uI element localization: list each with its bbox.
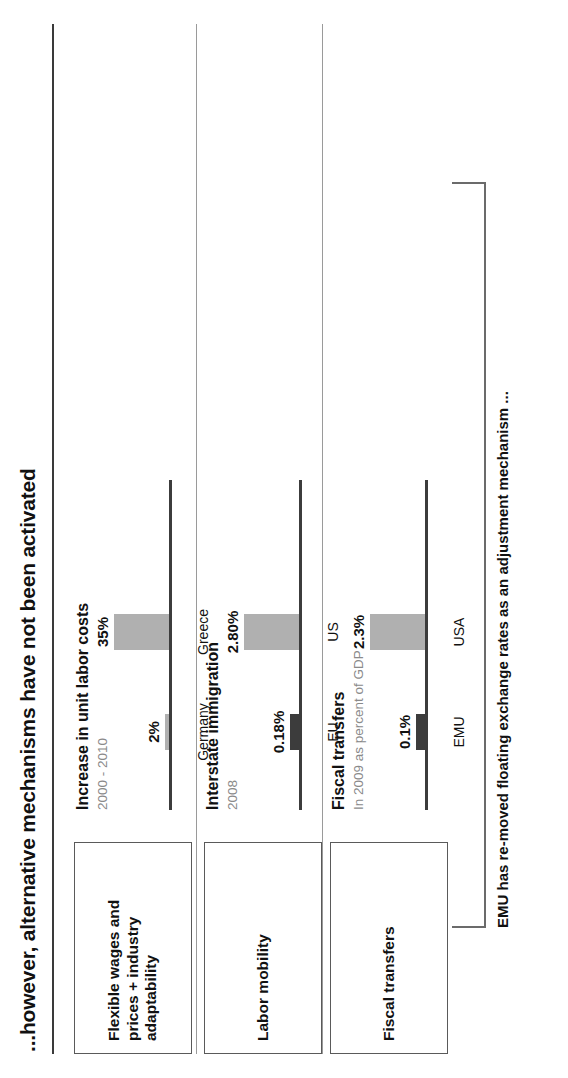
chart-title: Increase in unit labor costs bbox=[74, 603, 92, 810]
bar-value-label: 2.80% bbox=[224, 611, 241, 654]
chart-fiscal-transfers: Fiscal transfers In 2009 as percent of G… bbox=[330, 20, 448, 810]
row-divider bbox=[196, 24, 197, 1054]
bar-emu[interactable]: 0.1% bbox=[416, 714, 425, 750]
chart-title: Fiscal transfers bbox=[330, 692, 348, 810]
bar-group: 0.1% EMU bbox=[370, 714, 448, 750]
slide-frame: ...however, alternative mechanisms have … bbox=[0, 0, 568, 1078]
card-label: Flexible wages and prices + industry ada… bbox=[105, 843, 161, 1053]
bar-group: 2.3% USA bbox=[370, 614, 448, 650]
slide-canvas: ...however, alternative mechanisms have … bbox=[0, 0, 568, 1078]
row-divider bbox=[322, 24, 323, 1054]
bar-value-label: 35% bbox=[94, 617, 111, 647]
bar-group: 2% Germany bbox=[114, 714, 192, 750]
chart-subtitle: 2000 - 2010 bbox=[95, 738, 110, 810]
grouping-bracket bbox=[452, 182, 486, 928]
plot-area: 2% Germany 35% Greece bbox=[114, 20, 192, 810]
bar-group: 2.80% US bbox=[244, 614, 322, 650]
card-flexible-wages[interactable]: Flexible wages and prices + industry ada… bbox=[74, 842, 192, 1054]
plot-area: 0.18% EU 2.80% US bbox=[244, 20, 322, 810]
bracket-caption: EMU has re-moved floating exchange rates… bbox=[494, 168, 512, 928]
chart-interstate-immigration: Interstate immigration 2008 0.18% EU 2.8… bbox=[204, 20, 322, 810]
title-divider bbox=[52, 24, 54, 1054]
bar-us[interactable]: 2.80% bbox=[244, 614, 299, 650]
chart-title: Interstate immigration bbox=[204, 642, 222, 810]
bar-eu[interactable]: 0.18% bbox=[290, 714, 299, 750]
chart-subtitle: 2008 bbox=[225, 780, 240, 810]
card-labor-mobility[interactable]: Labor mobility bbox=[204, 842, 322, 1054]
bar-value-label: 2% bbox=[145, 721, 162, 743]
card-label: Labor mobility bbox=[254, 922, 273, 1053]
bar-usa[interactable]: 2.3% bbox=[370, 614, 425, 650]
bar-value-label: 0.1% bbox=[396, 715, 413, 749]
card-fiscal-transfers[interactable]: Fiscal transfers bbox=[330, 842, 448, 1054]
bar-greece[interactable]: 35% bbox=[114, 614, 169, 650]
chart-subtitle: In 2009 as percent of GDP bbox=[351, 650, 366, 810]
chart-unit-labor-costs: Increase in unit labor costs 2000 - 2010… bbox=[74, 20, 192, 810]
page-title: ...however, alternative mechanisms have … bbox=[16, 468, 40, 1052]
plot-area: 0.1% EMU 2.3% USA bbox=[370, 20, 448, 810]
bar-value-label: 0.18% bbox=[270, 711, 287, 754]
bar-group: 35% Greece bbox=[114, 614, 192, 650]
bar-group: 0.18% EU bbox=[244, 714, 322, 750]
bar-value-label: 2.3% bbox=[350, 615, 367, 649]
card-label: Fiscal transfers bbox=[380, 914, 399, 1053]
bar-germany[interactable]: 2% bbox=[165, 714, 169, 750]
